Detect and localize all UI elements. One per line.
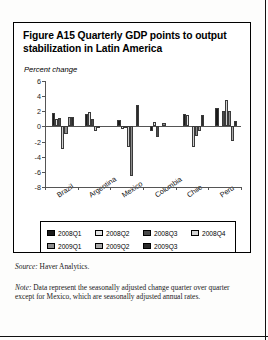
x-axis-category-label: Chile <box>185 183 204 200</box>
legend-item[interactable]: 2008Q4 <box>191 230 239 237</box>
chart-legend: 2008Q12008Q22008Q32008Q4 2009Q12009Q2200… <box>40 221 236 253</box>
page-edge-bottom <box>0 336 268 337</box>
chart-bar <box>198 126 201 131</box>
page-edge-right <box>265 0 266 340</box>
figure-source: Source: Haver Analytics. <box>15 262 247 271</box>
chart-bar <box>130 126 133 175</box>
legend-swatch <box>47 230 55 236</box>
x-axis-category-label: Peru <box>218 183 236 199</box>
chart-bar <box>156 126 159 137</box>
chart-bar <box>97 126 100 128</box>
legend-item[interactable]: 2009Q3 <box>143 243 191 250</box>
chart-bar <box>201 115 204 126</box>
chart-canvas: 6420-2-4-6-8BrazilArgentinaMexicoColombi… <box>45 81 241 187</box>
legend-item[interactable]: 2008Q2 <box>95 230 143 237</box>
source-text: Haver Analytics. <box>38 262 90 271</box>
y-axis-tick <box>42 172 45 173</box>
note-label: Note: <box>15 283 31 292</box>
chart-bar <box>91 119 94 127</box>
y-axis-tick <box>42 96 45 97</box>
legend-swatch <box>95 230 103 236</box>
legend-label: 2008Q3 <box>154 230 177 237</box>
legend-label: 2009Q1 <box>58 243 81 250</box>
legend-item[interactable]: 2009Q1 <box>47 243 95 250</box>
source-label: Source: <box>15 262 38 271</box>
x-axis-category-label: Brazil <box>55 182 75 200</box>
legend-swatch <box>47 243 55 249</box>
legend-label: 2009Q3 <box>154 243 177 250</box>
y-axis-tick <box>42 142 45 143</box>
legend-row-2: 2009Q12009Q22009Q3 <box>47 240 191 252</box>
chart-plot-area: 6420-2-4-6-8BrazilArgentinaMexicoColombi… <box>45 81 241 187</box>
y-axis-tick-label: 4 <box>37 92 41 101</box>
y-axis-tick <box>42 126 45 127</box>
x-axis-tick <box>241 187 242 190</box>
legend-label: 2009Q2 <box>106 243 129 250</box>
legend-label: 2008Q2 <box>106 230 129 237</box>
y-axis-tick-label: -2 <box>35 137 41 146</box>
chart-bar <box>136 105 139 126</box>
chart-bar <box>228 111 231 126</box>
page: Figure A15 Quarterly GDP points to outpu… <box>0 0 268 340</box>
y-axis-line <box>45 81 46 187</box>
y-axis-tick <box>42 157 45 158</box>
chart-bar <box>150 126 153 131</box>
chart-bar <box>231 126 234 140</box>
chart-bar <box>234 121 237 126</box>
legend-swatch <box>95 243 103 249</box>
y-axis-tick <box>42 111 45 112</box>
y-axis-tick <box>42 81 45 82</box>
legend-label: 2008Q1 <box>58 230 81 237</box>
legend-swatch <box>143 243 151 249</box>
y-axis-tick-label: 0 <box>37 122 41 131</box>
chart-bar <box>215 108 218 126</box>
y-axis-tick-label: -6 <box>35 167 41 176</box>
x-axis-category-label: Mexico <box>120 179 144 199</box>
y-axis-title: Percent change <box>24 65 77 74</box>
figure-title: Figure A15 Quarterly GDP points to outpu… <box>23 30 243 55</box>
y-axis-tick-label: -8 <box>35 183 41 192</box>
chart-bar <box>186 115 189 126</box>
note-text: Data represent the seasonally adjusted c… <box>15 283 229 301</box>
legend-item[interactable]: 2008Q3 <box>143 230 191 237</box>
x-axis-line <box>45 126 241 127</box>
legend-label: 2008Q4 <box>202 230 225 237</box>
figure-box: Figure A15 Quarterly GDP points to outpu… <box>13 22 251 253</box>
legend-item[interactable]: 2008Q1 <box>47 230 95 237</box>
legend-item[interactable]: 2009Q2 <box>95 243 143 250</box>
chart-bar <box>64 126 67 134</box>
y-axis-tick-label: 2 <box>37 107 41 116</box>
chart-bar <box>71 117 74 127</box>
legend-row-1: 2008Q12008Q22008Q32008Q4 <box>47 227 239 239</box>
chart-bar <box>58 118 61 126</box>
legend-swatch <box>143 230 151 236</box>
figure-note: Note: Data represent the seasonally adju… <box>15 283 247 302</box>
legend-swatch <box>191 230 199 236</box>
chart-bar <box>162 123 165 126</box>
y-axis-tick-label: -4 <box>35 152 41 161</box>
x-axis-baseline <box>45 187 241 188</box>
y-axis-tick-label: 6 <box>37 77 41 86</box>
